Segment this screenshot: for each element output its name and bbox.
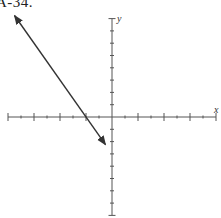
plotted-line bbox=[15, 16, 106, 145]
axes bbox=[8, 19, 216, 216]
coordinate-plane bbox=[0, 0, 221, 218]
y-axis-label: y bbox=[117, 13, 121, 24]
x-axis-label: x bbox=[214, 104, 218, 115]
